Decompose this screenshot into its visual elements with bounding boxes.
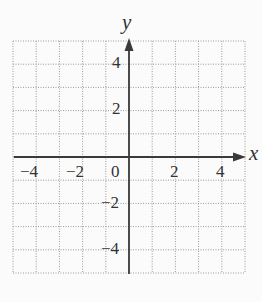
x-tick-label: 2	[170, 163, 179, 180]
y-axis-arrow-icon	[125, 38, 134, 51]
x-axis-arrow-icon	[233, 153, 246, 162]
y-tick-label: −2	[101, 194, 119, 211]
x-tick-label: −4	[20, 163, 38, 180]
y-axis-label: y	[122, 12, 131, 33]
y-tick-label: −4	[101, 240, 119, 257]
x-tick-label: 0	[111, 163, 120, 180]
x-tick-label: −2	[66, 163, 84, 180]
y-tick-label: 4	[112, 54, 121, 71]
coordinate-grid	[0, 0, 262, 302]
x-tick-label: 4	[216, 163, 225, 180]
y-tick-label: 2	[112, 100, 121, 117]
x-axis-label: x	[249, 143, 258, 164]
